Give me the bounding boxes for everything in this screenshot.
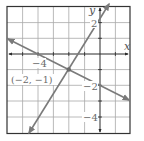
y-tick-label-neg4: −4 — [83, 112, 98, 123]
intersection-point — [67, 67, 71, 71]
x-tick-label-neg4: −4 — [32, 58, 47, 69]
y-axis-label: y — [88, 4, 96, 17]
x-axis-label: x — [124, 40, 131, 53]
intersection-label: (−2, −1) — [11, 74, 52, 85]
y-tick-label-neg2: −2 — [83, 81, 98, 92]
coordinate-graph: x y −4 2 −2 −4 (−2, −1) — [0, 0, 144, 141]
y-tick-label-2: 2 — [91, 18, 97, 29]
